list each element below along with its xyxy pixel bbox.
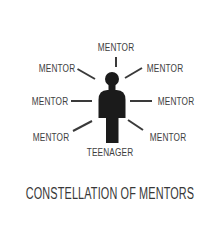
mentor-label-lower-left: MENTOR bbox=[33, 132, 70, 143]
connector-line-lower-right bbox=[128, 120, 143, 130]
mentor-label-left: MENTOR bbox=[32, 96, 69, 107]
diagram-title: CONSTELLATION OF MENTORS bbox=[26, 186, 195, 202]
mentor-label-top: MENTOR bbox=[98, 42, 135, 53]
constellation-diagram: MENTOR MENTOR MENTOR MENTOR MENTOR MENTO… bbox=[0, 0, 218, 225]
mentor-label-right: MENTOR bbox=[158, 96, 195, 107]
mentor-label-upper-right: MENTOR bbox=[147, 63, 184, 74]
connector-line-upper-right bbox=[125, 68, 142, 78]
mentor-label-lower-right: MENTOR bbox=[150, 132, 187, 143]
connector-line-upper-left bbox=[78, 69, 96, 79]
person-silhouette-icon bbox=[99, 72, 126, 143]
teenager-label: TEENAGER bbox=[87, 147, 134, 158]
mentor-label-upper-left: MENTOR bbox=[39, 63, 76, 74]
connector-line-lower-left bbox=[73, 121, 92, 131]
